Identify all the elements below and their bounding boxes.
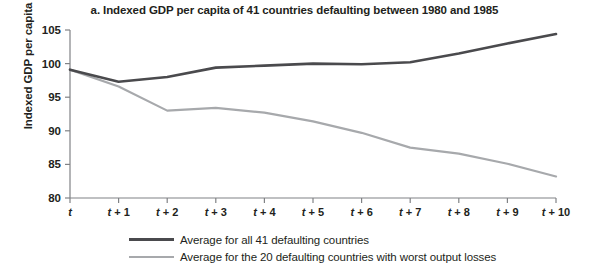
plot-area: 80859095100105 tt + 1t + 2t + 3t + 4t + … xyxy=(0,0,589,269)
series-line xyxy=(70,34,556,82)
chart-legend: Average for all 41 defaulting countries … xyxy=(129,231,549,265)
legend-swatch-icon-light xyxy=(129,256,174,258)
x-axis-tick-label: t + 10 xyxy=(542,206,570,218)
x-axis-tick-label: t + 5 xyxy=(302,206,324,218)
y-axis-tick-label: 80 xyxy=(48,192,61,204)
y-axis-tick-label: 85 xyxy=(48,158,61,170)
legend-item-all-countries: Average for all 41 defaulting countries xyxy=(129,231,549,248)
x-axis-tick-label: t + 9 xyxy=(496,206,518,218)
legend-label-all-countries: Average for all 41 defaulting countries xyxy=(180,234,369,246)
chart-figure: a. Indexed GDP per capita of 41 countrie… xyxy=(0,0,589,269)
data-series xyxy=(70,34,556,176)
x-axis-tick-label: t + 1 xyxy=(107,206,129,218)
x-axis-tick-label: t xyxy=(68,206,73,218)
y-axis-ticks: 80859095100105 xyxy=(42,24,70,204)
y-axis-tick-label: 95 xyxy=(48,91,61,103)
x-axis-tick-label: t + 4 xyxy=(253,206,276,218)
x-axis-tick-label: t + 3 xyxy=(205,206,227,218)
legend-swatch-icon-dark xyxy=(129,238,174,241)
x-axis-tick-label: t + 8 xyxy=(448,206,470,218)
legend-label-worst-losses: Average for the 20 defaulting countries … xyxy=(180,251,496,263)
x-axis-ticks: tt + 1t + 2t + 3t + 4t + 5t + 6t + 7t + … xyxy=(68,198,570,218)
x-axis-tick-label: t + 2 xyxy=(156,206,178,218)
x-axis-tick-label: t + 6 xyxy=(350,206,372,218)
legend-item-worst-losses: Average for the 20 defaulting countries … xyxy=(129,248,549,265)
x-axis-tick-label: t + 7 xyxy=(399,206,421,218)
series-line xyxy=(70,70,556,177)
y-axis-tick-label: 90 xyxy=(48,125,61,137)
y-axis-tick-label: 105 xyxy=(42,24,62,36)
axes xyxy=(70,30,556,198)
y-axis-tick-label: 100 xyxy=(42,58,61,70)
